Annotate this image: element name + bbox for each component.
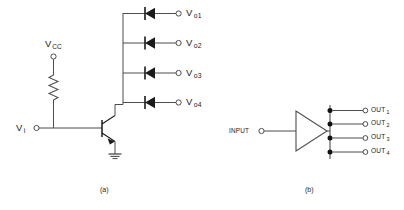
vo3-terminal-circle xyxy=(176,70,181,75)
vi-label-sub: i xyxy=(22,127,25,134)
out2-label-sub: 2 xyxy=(385,122,389,128)
out4-label: OUT4 xyxy=(371,148,390,156)
vo2-terminal-circle xyxy=(176,40,181,45)
diode-branch-2 xyxy=(123,37,181,50)
base-resistor-symbol xyxy=(49,72,58,103)
input-label: INPUT xyxy=(229,128,249,134)
out1-terminal-circle xyxy=(363,108,368,113)
bus-junction-dot-4 xyxy=(328,150,333,155)
vo3-label-sub: o3 xyxy=(192,72,201,79)
caption-b: (b) xyxy=(305,186,314,193)
vi-label: Vi xyxy=(16,123,25,135)
vcc-terminal-circle xyxy=(51,54,56,59)
buffer-triangle xyxy=(296,111,327,151)
vcc-label: VCC xyxy=(45,39,62,51)
out4-label-sub: 4 xyxy=(385,150,389,156)
fanout-branch-2 xyxy=(328,122,368,127)
diode-branch-1 xyxy=(123,7,181,20)
transistor-collector-lead xyxy=(102,116,115,125)
panel-b-circuit xyxy=(259,105,368,159)
out4-label-main: OUT xyxy=(371,147,385,154)
fanout-branch-1 xyxy=(328,108,368,113)
vo4-terminal-circle xyxy=(176,100,181,105)
caption-a: (a) xyxy=(100,186,109,193)
vcc-label-sub: CC xyxy=(51,43,62,50)
diode-branch-3 xyxy=(123,67,181,80)
out3-label-main: OUT xyxy=(371,133,385,140)
vo1-label: Vo1 xyxy=(186,8,202,20)
out3-label-sub: 3 xyxy=(385,136,389,142)
out2-terminal-circle xyxy=(363,122,368,127)
diode-branch-4 xyxy=(123,96,181,109)
diode-4-anode-triangle xyxy=(145,97,155,108)
out1-label-main: OUT xyxy=(371,106,385,113)
diode-2-anode-triangle xyxy=(145,37,155,48)
out1-label-sub: 1 xyxy=(385,109,389,115)
vo1-terminal-circle xyxy=(176,11,181,16)
out4-terminal-circle xyxy=(363,150,368,155)
bus-junction-dot-2 xyxy=(328,122,333,127)
out1-label: OUT1 xyxy=(371,107,390,115)
fanout-branch-3 xyxy=(328,136,368,141)
vo4-label: Vo4 xyxy=(186,97,202,109)
input-terminal-circle xyxy=(259,128,264,133)
bus-junction-dot-3 xyxy=(328,136,333,141)
diode-1-anode-triangle xyxy=(145,8,155,19)
fanout-branch-4 xyxy=(328,150,368,155)
diode-3-anode-triangle xyxy=(145,67,155,78)
out3-terminal-circle xyxy=(363,136,368,141)
circuit-diagram-canvas xyxy=(0,0,404,210)
vo2-label: Vo2 xyxy=(186,38,202,50)
panel-a-circuit xyxy=(34,7,181,159)
out2-label-main: OUT xyxy=(371,119,385,126)
vo4-label-sub: o4 xyxy=(192,101,201,108)
figure-root: VCC Vi Vo1 Vo2 Vo3 Vo4 INPUT OUT1 OUT2 O… xyxy=(0,0,404,210)
out2-label: OUT2 xyxy=(371,120,390,128)
vo2-label-sub: o2 xyxy=(192,42,201,49)
out3-label: OUT3 xyxy=(371,134,390,142)
vo1-label-sub: o1 xyxy=(192,12,201,19)
vo3-label: Vo3 xyxy=(186,68,202,80)
bus-junction-dot-1 xyxy=(328,108,333,113)
vi-terminal-circle xyxy=(34,125,39,130)
